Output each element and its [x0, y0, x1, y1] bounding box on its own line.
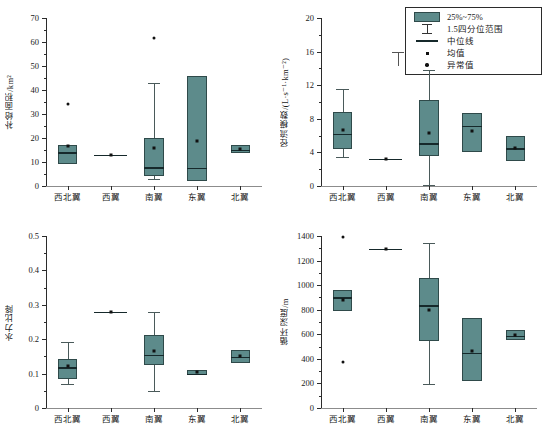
x-tick-label: 西北翼 [54, 192, 81, 202]
y-tick-label: 30 [31, 110, 40, 119]
x-tick-label: 北翼 [506, 414, 524, 424]
y-tick [317, 18, 321, 19]
y-tick-label: 600 [301, 330, 314, 339]
y-tick-label: 50 [31, 62, 40, 71]
mean-marker [109, 311, 112, 314]
y-axis-line [46, 18, 47, 186]
whisker-lower [154, 365, 155, 390]
y-tick [317, 85, 321, 86]
y-minor-tick [319, 273, 322, 274]
y-tick [42, 374, 46, 375]
y-tick [42, 66, 46, 67]
y-minor-tick [319, 68, 322, 69]
y-tick [42, 305, 46, 306]
x-tick [154, 408, 155, 412]
x-tick-label: 东翼 [463, 414, 481, 424]
mean-marker [66, 145, 69, 148]
mean-marker [153, 350, 156, 353]
mean-marker [196, 139, 199, 142]
y-minor-tick [319, 35, 322, 36]
median-line [231, 357, 250, 358]
y-tick-label: 1400 [297, 232, 314, 241]
y-tick [317, 236, 321, 237]
whisker-cap-upper [423, 70, 435, 71]
y-tick-label: 0 [310, 404, 314, 413]
box [187, 76, 206, 181]
whisker-upper [343, 89, 344, 113]
panel-circulation-depth: 0200400600800100012001400西北翼西翼南翼东翼北翼循环深度… [275, 222, 547, 438]
x-tick-label: 西北翼 [329, 192, 356, 202]
y-tick [317, 52, 321, 53]
whisker-cap-lower [423, 185, 435, 186]
x-tick-label: 南翼 [420, 192, 438, 202]
x-tick [386, 186, 387, 190]
whisker-cap-lower [148, 391, 160, 392]
median-line [462, 126, 481, 127]
x-tick-label: 北翼 [506, 192, 524, 202]
y-axis-title: 水力比降 [4, 236, 16, 408]
y-tick [317, 186, 321, 187]
x-tick-label: 西翼 [377, 414, 395, 424]
y-tick-label: 800 [301, 305, 314, 314]
median-line [419, 143, 438, 144]
y-tick-label: 10 [31, 158, 40, 167]
median-line [187, 374, 206, 375]
y-axis-title: 径流模数/(L·s⁻¹·km⁻²) [279, 18, 291, 186]
box [144, 138, 163, 176]
y-minor-tick [44, 126, 47, 127]
figure-root: 25%~75% 1.5四分位范围 中位线 均值 异常值 010203040506… [0, 0, 547, 443]
mean-marker [384, 158, 387, 161]
y-minor-tick [319, 297, 322, 298]
median-line [58, 152, 77, 153]
box [419, 100, 438, 155]
mean-marker [341, 298, 344, 301]
y-tick-label: 1200 [297, 256, 314, 265]
x-tick-label: 西翼 [102, 414, 120, 424]
y-tick-label: 0.4 [28, 266, 39, 275]
x-tick [343, 408, 344, 412]
y-tick [317, 261, 321, 262]
y-tick-label: 12 [306, 81, 315, 90]
y-tick-label: 0.5 [28, 232, 39, 241]
y-minor-tick [44, 288, 47, 289]
y-axis-line [46, 236, 47, 408]
x-tick [515, 186, 516, 190]
y-tick [317, 334, 321, 335]
y-minor-tick [319, 136, 322, 137]
whisker-lower [429, 341, 430, 385]
whisker-cap-upper [423, 243, 435, 244]
y-minor-tick [319, 396, 322, 397]
mean-marker [428, 308, 431, 311]
y-minor-tick [44, 30, 47, 31]
y-tick-label: 0.3 [28, 301, 39, 310]
y-tick-label: 8 [310, 115, 314, 124]
y-tick [317, 310, 321, 311]
mean-marker [471, 349, 474, 352]
y-tick-label: 0 [310, 182, 314, 191]
x-tick [240, 186, 241, 190]
y-tick-label: 20 [306, 14, 315, 23]
x-tick [472, 408, 473, 412]
whisker-upper [429, 243, 430, 278]
y-tick-label: 0.2 [28, 335, 39, 344]
median-line [144, 355, 163, 356]
outlier-point [153, 37, 156, 40]
panel-hydraulic-gradient: 00.10.20.30.40.5西北翼西翼南翼东翼北翼水力比降 [0, 222, 272, 438]
whisker-cap-upper [336, 89, 348, 90]
y-tick [42, 162, 46, 163]
y-tick-label: 400 [301, 355, 314, 364]
box [462, 113, 481, 152]
y-tick-label: 70 [31, 14, 40, 23]
x-tick [111, 408, 112, 412]
outlier-point [341, 361, 344, 364]
y-minor-tick [44, 174, 47, 175]
y-tick-label: 1000 [297, 281, 314, 290]
x-tick-label: 西翼 [102, 192, 120, 202]
whisker-cap-lower [148, 179, 160, 180]
mean-marker [514, 147, 517, 150]
x-tick-label: 西北翼 [329, 414, 356, 424]
y-minor-tick [319, 169, 322, 170]
y-tick [317, 408, 321, 409]
y-tick [42, 186, 46, 187]
y-minor-tick [319, 102, 322, 103]
